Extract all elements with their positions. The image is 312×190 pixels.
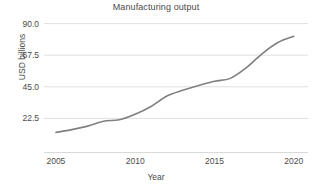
plot-area (44, 18, 308, 150)
x-axis-line (44, 152, 308, 153)
x-axis-title: Year (0, 172, 312, 182)
x-axis-tick-labels: 2005201020152020 (0, 156, 312, 170)
y-tick-label: 22.5 (22, 113, 39, 123)
chart-title: Manufacturing output (0, 2, 312, 12)
chart-container: Manufacturing output 22.545.067.590.0 US… (0, 0, 312, 190)
x-tick-label: 2015 (205, 156, 224, 166)
x-tick-label: 2020 (284, 156, 303, 166)
x-tick-label: 2010 (126, 156, 145, 166)
series-line-manufacturing-output (56, 36, 294, 132)
y-axis-title: USD billions (17, 17, 27, 97)
x-tick-label: 2005 (46, 156, 65, 166)
data-series-group (44, 18, 308, 150)
